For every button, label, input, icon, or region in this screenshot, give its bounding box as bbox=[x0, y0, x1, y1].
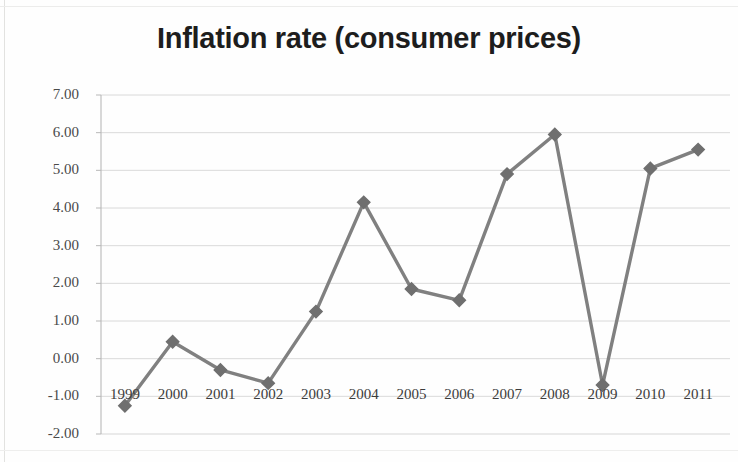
y-axis-tick-label: -1.00 bbox=[9, 387, 79, 404]
y-axis-tick-label: 6.00 bbox=[9, 124, 79, 141]
x-axis-tick-label: 1999 bbox=[100, 386, 150, 403]
y-axis-tick-label: 0.00 bbox=[9, 350, 79, 367]
data-point-marker bbox=[453, 294, 465, 306]
gridlines-group bbox=[101, 95, 730, 434]
x-axis-tick-label: 2003 bbox=[291, 386, 341, 403]
x-axis-tick-label: 2006 bbox=[434, 386, 484, 403]
x-axis-tick-label: 2000 bbox=[148, 386, 198, 403]
series-markers-group bbox=[119, 128, 705, 412]
series-line-group bbox=[125, 135, 698, 406]
x-axis-tick-label: 2005 bbox=[387, 386, 437, 403]
y-axis-tick-label: 5.00 bbox=[9, 161, 79, 178]
y-axis-tick-label: 7.00 bbox=[9, 86, 79, 103]
y-axis-tick-label: 1.00 bbox=[9, 312, 79, 329]
y-axis-tick-label: 4.00 bbox=[9, 199, 79, 216]
x-axis-tick-label: 2002 bbox=[243, 386, 293, 403]
data-point-marker bbox=[644, 162, 656, 174]
y-axis-tick-label: -2.00 bbox=[9, 425, 79, 442]
x-axis-tick-label: 2007 bbox=[482, 386, 532, 403]
axis-group bbox=[96, 95, 101, 434]
line-chart-plot-area: 7.006.005.004.003.002.001.000.00-1.00-2.… bbox=[0, 0, 738, 462]
chart-page: Inflation rate (consumer prices) 7.006.0… bbox=[0, 0, 738, 462]
data-point-marker bbox=[692, 143, 704, 155]
data-point-marker bbox=[358, 196, 370, 208]
x-axis-tick-label: 2009 bbox=[578, 386, 628, 403]
x-axis-tick-label: 2008 bbox=[530, 386, 580, 403]
data-point-marker bbox=[405, 283, 417, 295]
y-axis-tick-label: 3.00 bbox=[9, 237, 79, 254]
x-axis-tick-label: 2011 bbox=[673, 386, 723, 403]
x-axis-tick-label: 2004 bbox=[339, 386, 389, 403]
x-axis-tick-label: 2001 bbox=[195, 386, 245, 403]
series-polyline bbox=[125, 135, 698, 406]
x-axis-tick-label: 2010 bbox=[625, 386, 675, 403]
y-axis-tick-label: 2.00 bbox=[9, 274, 79, 291]
